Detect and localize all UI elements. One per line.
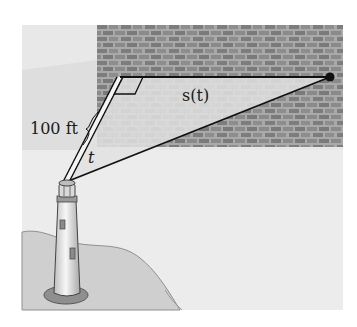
lighthouse-body [54, 200, 80, 296]
lighthouse-cap [59, 180, 75, 186]
lighthouse-diagram: 100 ft s(t) t [0, 0, 357, 327]
lighthouse-window-upper [60, 220, 65, 229]
lighthouse-window-lower [70, 248, 75, 259]
light-spot [326, 73, 335, 82]
angle-label: t [88, 148, 95, 167]
spot-position-label: s(t) [182, 86, 209, 105]
distance-label: 100 ft [30, 119, 79, 138]
